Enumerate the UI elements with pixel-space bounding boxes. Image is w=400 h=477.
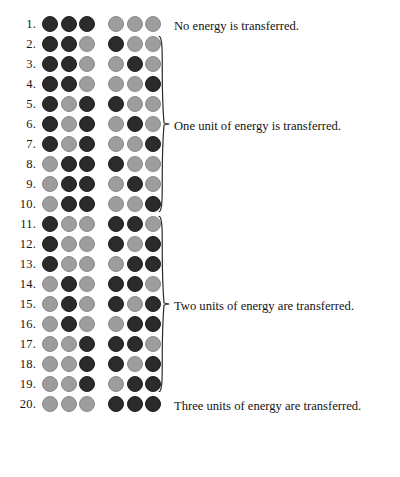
dot-dark	[61, 296, 77, 312]
microstate-row: 14.	[0, 274, 400, 294]
microstate-row: 5.	[0, 94, 400, 114]
dot-dark	[127, 256, 143, 272]
dot-dark	[42, 96, 58, 112]
dot-group-left	[42, 36, 95, 52]
brace-rows-11-19	[158, 216, 170, 392]
dot-group-right	[108, 396, 161, 412]
dot-group-right	[108, 276, 161, 292]
dot-dark	[108, 216, 124, 232]
group-gap	[95, 104, 108, 105]
dot-group-right	[108, 136, 161, 152]
dot-light	[61, 376, 77, 392]
dot-light	[108, 16, 124, 32]
row-number: 17.	[0, 338, 42, 351]
dot-light	[127, 236, 143, 252]
dot-light	[79, 36, 95, 52]
dot-light	[127, 36, 143, 52]
microstate-row: 17.	[0, 334, 400, 354]
dot-light	[42, 276, 58, 292]
dot-cells	[42, 56, 161, 72]
dot-dark	[79, 136, 95, 152]
group-gap	[95, 124, 108, 125]
dot-light	[79, 296, 95, 312]
dot-light	[127, 76, 143, 92]
dot-group-left	[42, 196, 95, 212]
dot-light	[108, 376, 124, 392]
dot-group-right	[108, 156, 161, 172]
caption-text: One unit of energy is transferred.	[174, 120, 341, 133]
dot-group-left	[42, 56, 95, 72]
dot-light	[61, 336, 77, 352]
dot-light	[108, 256, 124, 272]
dot-dark	[61, 16, 77, 32]
group-gap	[95, 404, 108, 405]
dot-light	[127, 196, 143, 212]
dot-dark	[42, 16, 58, 32]
dot-dark	[127, 316, 143, 332]
dot-group-right	[108, 96, 161, 112]
dot-group-right	[108, 36, 161, 52]
energy-transfer-figure: 1.2.3.4.5.6.7.8.9.10.11.12.13.14.15.16.1…	[0, 0, 400, 477]
dot-dark	[108, 236, 124, 252]
dot-cells	[42, 396, 161, 412]
dot-light	[108, 136, 124, 152]
group-gap	[95, 84, 108, 85]
dot-dark	[108, 396, 124, 412]
dot-group-left	[42, 276, 95, 292]
dot-light	[61, 256, 77, 272]
caption-text: Two units of energy are transferred.	[174, 300, 354, 313]
dot-dark	[79, 376, 95, 392]
microstate-row: 19.	[0, 374, 400, 394]
dot-group-right	[108, 176, 161, 192]
dot-dark	[127, 116, 143, 132]
row-number: 4.	[0, 78, 42, 91]
dot-cells	[42, 96, 161, 112]
dot-group-left	[42, 116, 95, 132]
group-gap	[95, 204, 108, 205]
dot-cells	[42, 76, 161, 92]
dot-dark	[79, 116, 95, 132]
row-number: 2.	[0, 38, 42, 51]
row-number: 12.	[0, 238, 42, 251]
caption-text: Three units of energy are transferred.	[174, 400, 361, 413]
brace-rows-2-10	[158, 36, 170, 212]
dot-light	[61, 96, 77, 112]
dot-dark	[108, 276, 124, 292]
dot-group-left	[42, 336, 95, 352]
dot-light	[79, 236, 95, 252]
dot-dark	[79, 16, 95, 32]
dot-dark	[61, 76, 77, 92]
row-number: 7.	[0, 138, 42, 151]
dot-dark	[127, 216, 143, 232]
dot-dark	[108, 336, 124, 352]
row-number: 13.	[0, 258, 42, 271]
dot-dark	[61, 36, 77, 52]
microstate-row: 13.	[0, 254, 400, 274]
dot-dark	[127, 396, 143, 412]
dot-group-right	[108, 376, 161, 392]
dot-dark	[79, 336, 95, 352]
dot-light	[42, 176, 58, 192]
dot-group-left	[42, 296, 95, 312]
microstate-row: 4.	[0, 74, 400, 94]
dot-light	[42, 376, 58, 392]
row-number: 19.	[0, 378, 42, 391]
dot-dark	[61, 196, 77, 212]
dot-dark	[79, 156, 95, 172]
dot-light	[127, 16, 143, 32]
row-number: 15.	[0, 298, 42, 311]
dot-group-left	[42, 256, 95, 272]
dot-dark	[79, 196, 95, 212]
dot-light	[79, 396, 95, 412]
dot-cells	[42, 136, 161, 152]
dot-cells	[42, 356, 161, 372]
dot-dark	[108, 356, 124, 372]
dot-light	[79, 76, 95, 92]
group-gap	[95, 244, 108, 245]
dot-group-left	[42, 396, 95, 412]
group-gap	[95, 144, 108, 145]
dot-dark	[79, 176, 95, 192]
microstate-row: 16.	[0, 314, 400, 334]
dot-group-right	[108, 316, 161, 332]
dot-group-right	[108, 336, 161, 352]
